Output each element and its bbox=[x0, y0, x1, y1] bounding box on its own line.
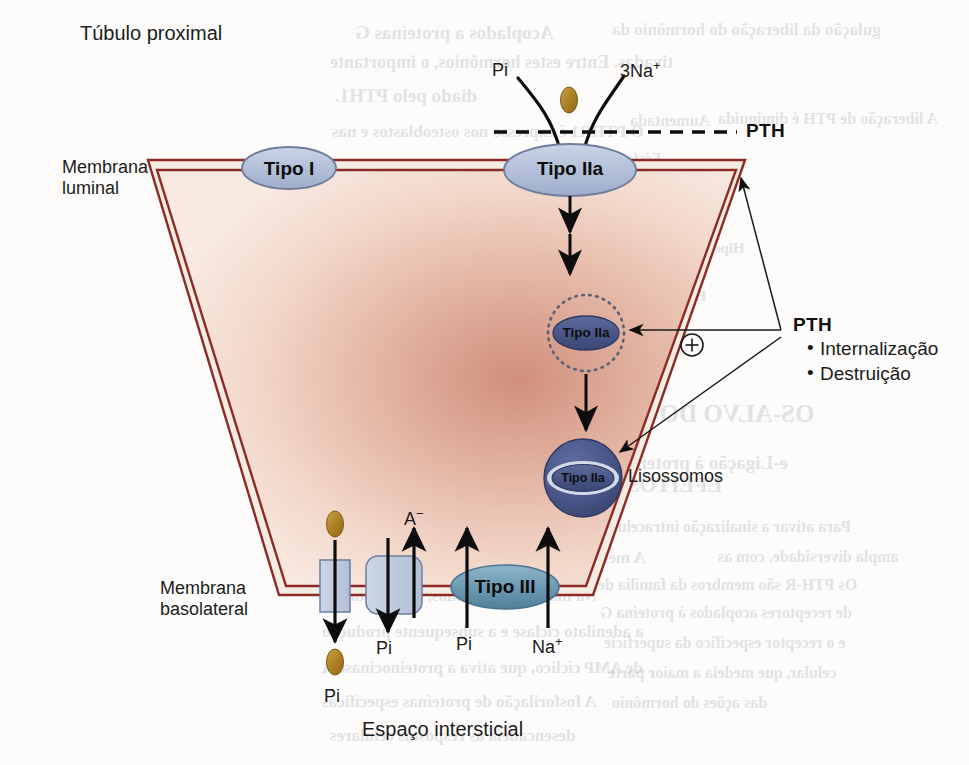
cytoplasm bbox=[157, 170, 737, 586]
luminal-sodium-label: 3Na+ bbox=[620, 58, 661, 82]
luminal-sodium-text: 3Na bbox=[620, 61, 653, 81]
bottom-caption: Espaço intersticial bbox=[362, 718, 523, 742]
pth-effects-list: Internalização Destruição bbox=[793, 338, 938, 385]
anion-text: A bbox=[404, 509, 416, 529]
pi-influx-label: Pi bbox=[456, 634, 472, 655]
membrana-basolateral-line2: basolateral bbox=[160, 599, 248, 619]
pth-block-title: PTH bbox=[793, 314, 938, 336]
figure-canvas: Acoplados a proteínas Ggulação da libera… bbox=[0, 0, 969, 765]
luminal-sodium-charge: + bbox=[653, 58, 661, 73]
membrana-luminal-label: Membrana luminal bbox=[62, 157, 148, 199]
membrana-basolateral-label: Membrana basolateral bbox=[160, 578, 248, 620]
na-uptake-curve bbox=[584, 76, 624, 150]
na-influx-label: Na+ bbox=[532, 634, 563, 658]
type-iia-luminal-label: Tipo IIa bbox=[504, 158, 636, 180]
luminal-pi-label: Pi bbox=[492, 60, 508, 81]
type-iia-lysosome-label: Tipo IIa bbox=[552, 471, 614, 485]
type-iia-vesicle-label: Tipo IIa bbox=[553, 325, 619, 340]
pi-uptake-curve bbox=[518, 78, 560, 150]
anion-label: A− bbox=[404, 506, 424, 530]
pth-effect-item: Internalização bbox=[807, 338, 938, 360]
na-influx-text: Na bbox=[532, 637, 555, 657]
membrana-basolateral-line1: Membrana bbox=[160, 578, 246, 598]
plus-sign-badge bbox=[681, 334, 703, 356]
lysosome-label: Lisossomos bbox=[628, 466, 723, 487]
membrana-luminal-line2: luminal bbox=[62, 178, 119, 198]
type-iii-label: Tipo III bbox=[453, 576, 557, 598]
page-title: Túbulo proximal bbox=[80, 22, 222, 46]
pi-channel-label: Pi bbox=[376, 638, 392, 659]
na-influx-charge: + bbox=[555, 634, 563, 649]
membrana-luminal-line1: Membrana bbox=[62, 157, 148, 177]
pi-interstitial-label: Pi bbox=[324, 686, 340, 707]
phosphate-particle-luminal bbox=[561, 87, 578, 113]
pth-effects-block: PTH Internalização Destruição bbox=[793, 314, 938, 385]
phosphate-particle-interstitial bbox=[327, 649, 344, 675]
pth-dashed-line-label: PTH bbox=[746, 120, 785, 142]
proximal-tubule-cell bbox=[148, 160, 745, 595]
phosphate-particle-cytosolic bbox=[327, 511, 344, 537]
anion-charge: − bbox=[416, 506, 424, 521]
pth-effect-item: Destruição bbox=[807, 363, 938, 385]
type-i-label: Tipo I bbox=[242, 158, 336, 180]
pth-arrow-to-membrane bbox=[741, 178, 781, 330]
